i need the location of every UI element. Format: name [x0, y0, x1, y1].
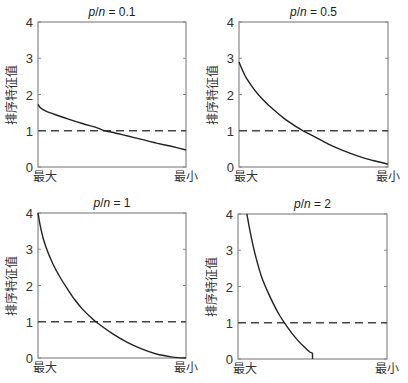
- chart-title: p/n = 2: [293, 197, 331, 211]
- y-tick-label: 0: [226, 352, 233, 367]
- x-label-min: 最小: [375, 362, 399, 376]
- plot-frame: [238, 214, 387, 359]
- y-tick-label: 2: [226, 280, 233, 295]
- y-tick-label: 1: [226, 316, 233, 331]
- chart-svg-4: 01234排序特征值最大最小p/n = 2: [0, 0, 408, 383]
- y-tick-label: 4: [226, 207, 233, 222]
- eigenvalue-curve: [247, 214, 313, 359]
- y-tick-label: 3: [226, 243, 233, 258]
- x-label-max: 最大: [233, 362, 257, 376]
- y-axis-label: 排序特征值: [204, 257, 219, 317]
- chart-panel-4: 01234排序特征值最大最小p/n = 2: [0, 0, 408, 383]
